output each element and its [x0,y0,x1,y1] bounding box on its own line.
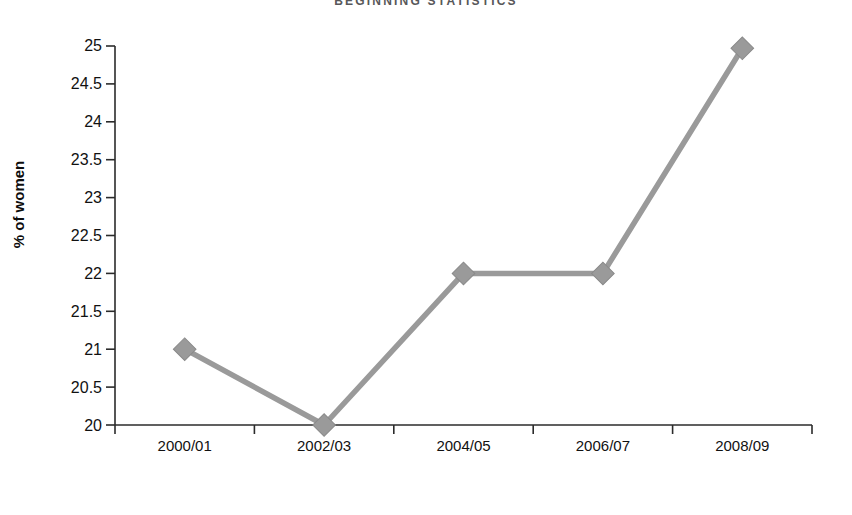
y-axis-ticks [106,46,115,425]
x-axis-ticks [115,425,812,434]
plot-area [0,0,852,515]
data-point-marker [173,338,196,361]
data-point-markers [173,37,753,436]
data-series-line [185,48,743,425]
chart-container: BEGINNING STATISTICS % of women 25 24.5 … [0,0,852,515]
